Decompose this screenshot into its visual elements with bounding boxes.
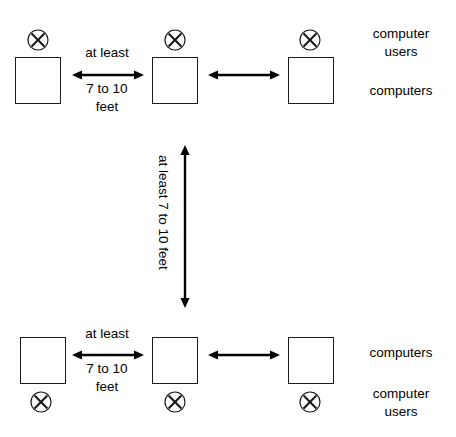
spacing-label-line3: feet [64,378,150,396]
computer-box-station-3 [288,57,334,104]
side-label-computer-users-top: computer users [349,25,453,61]
spacing-label-bottom-left: at least [64,325,150,343]
computer-box-station-6 [288,337,334,384]
computer-box-station-4 [20,337,66,384]
spacing-label-line2: 7 to 10 [64,80,150,98]
spacing-label-line2: 7 to 10 [64,360,150,378]
user-mark-station-4 [30,391,52,413]
side-label-computers-bottom: computers [349,344,453,362]
spacing-label-line3: feet [64,98,150,116]
side-label-computer-users-bottom: computer users [349,385,453,421]
spacing-label-top-left: at least [64,44,150,62]
spacing-label-line1: at least [64,325,150,343]
side-label-line1: computer [373,26,429,41]
row-spacing-arrow [179,145,191,308]
user-mark-station-6 [299,391,321,413]
spacing-label-bottom-left-lower: 7 to 10 feet [64,360,150,396]
row-spacing-label: at least 7 to 10 feet [156,155,171,270]
user-mark-station-2 [164,29,186,51]
side-label-computers-top: computers [349,82,453,100]
side-label-line1: computer [373,386,429,401]
computer-box-station-5 [152,337,198,384]
spacing-arrow-bottom-right [208,349,280,361]
user-mark-station-3 [299,29,321,51]
user-mark-station-1 [27,29,49,51]
computer-box-station-1 [15,57,61,104]
side-label-line2: users [384,44,417,59]
spacing-arrow-top-right [208,69,280,81]
spacing-label-line1: at least [64,44,150,62]
spacing-label-top-left-lower: 7 to 10 feet [64,80,150,116]
user-mark-station-5 [164,391,186,413]
side-label-line2: users [384,404,417,419]
workstation-spacing-diagram: at least 7 to 10 feet [0,0,456,437]
side-label-line1: computers [369,345,432,360]
computer-box-station-2 [152,57,198,104]
side-label-line1: computers [369,83,432,98]
